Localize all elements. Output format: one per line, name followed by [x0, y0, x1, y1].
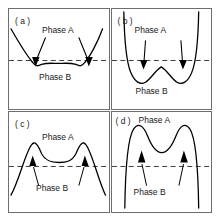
curve-b: [123, 12, 198, 83]
panel-a-tag: ( a ): [15, 17, 30, 26]
panel-c: ( c ) Phase A Phase B: [8, 111, 110, 213]
figure-root: ( a ) Phase A Phase B ( b ) Phase A Phas…: [0, 0, 219, 222]
panel-b-tag: ( b ): [118, 17, 133, 26]
arrow-c-left: [29, 156, 38, 186]
panel-a-label-phase-b: Phase B: [39, 73, 71, 82]
panel-d-label-phase-a: Phase A: [139, 116, 171, 125]
panel-c-label-phase-a: Phase A: [42, 133, 74, 142]
panel-d-plot: [112, 112, 212, 212]
panel-d-label-phase-b: Phase B: [134, 188, 166, 197]
arrow-a-left: [32, 38, 45, 67]
panel-a-label-phase-a: Phase A: [42, 26, 74, 35]
panel-b-label-phase-b: Phase B: [136, 87, 168, 96]
panel-d: ( d ) Phase A Phase B: [111, 111, 213, 213]
arrow-c-right: [79, 156, 89, 186]
panel-b-label-phase-a: Phase A: [135, 26, 167, 35]
panel-grid: ( a ) Phase A Phase B ( b ) Phase A Phas…: [8, 8, 212, 213]
arrow-b-right: [179, 41, 186, 70]
panel-c-label-phase-b: Phase B: [36, 184, 68, 193]
panel-a: ( a ) Phase A Phase B: [8, 8, 110, 110]
arrow-d-left: [137, 151, 146, 186]
arrow-d-right: [178, 151, 187, 186]
panel-b: ( b ) Phase A Phase B: [111, 8, 213, 110]
panel-c-tag: ( c ): [15, 120, 30, 129]
panel-d-tag: ( d ): [116, 117, 131, 126]
arrow-b-left: [139, 41, 146, 70]
